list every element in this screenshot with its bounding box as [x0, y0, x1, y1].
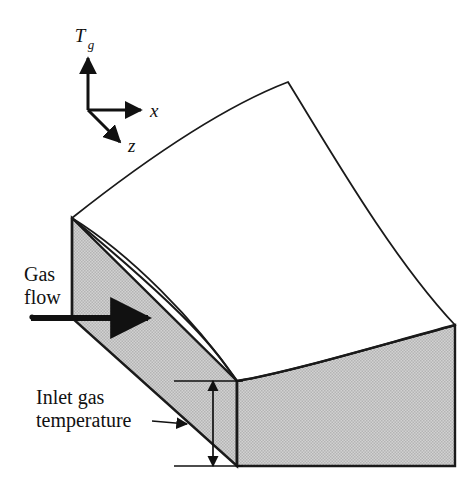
- axis-label-tg: T: [75, 25, 87, 46]
- figure-root: T g x z Gas flow Inlet gas temperature: [0, 0, 469, 488]
- inlet-label-line2: temperature: [36, 409, 132, 432]
- gas-flow-arrow-tail-dot: [29, 314, 34, 319]
- gas-flow-diagram: T g x z Gas flow Inlet gas temperature: [0, 0, 469, 488]
- axis-label-z: z: [127, 135, 136, 156]
- axis-label-x: x: [149, 100, 159, 121]
- gas-flow-label-line2: flow: [24, 286, 61, 308]
- axis-label-tg-subscript: g: [88, 37, 95, 52]
- axis-triad: T g x z: [75, 25, 159, 156]
- gas-flow-label-line1: Gas: [24, 263, 55, 285]
- axis-depth-z: [88, 110, 120, 142]
- inlet-leader-arrow: [152, 421, 187, 424]
- inlet-label-line1: Inlet gas: [36, 386, 105, 409]
